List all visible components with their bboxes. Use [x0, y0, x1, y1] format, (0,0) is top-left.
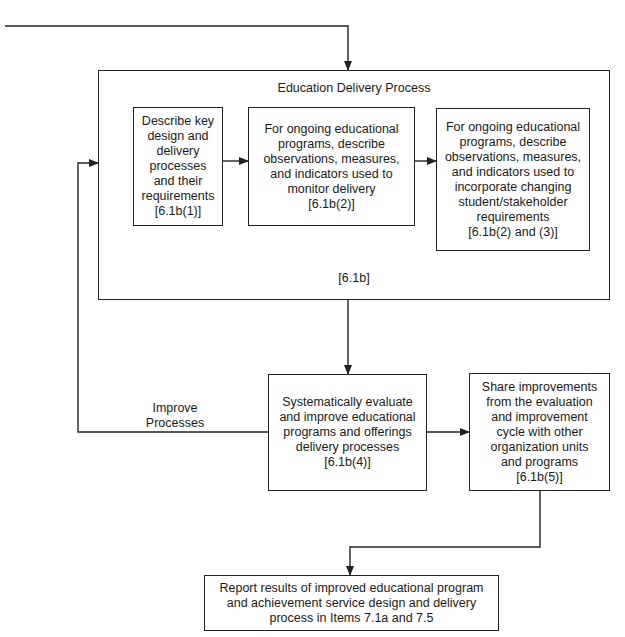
process-ref: [6.1b] — [98, 271, 610, 286]
evaluate-improve-text: Systematically evaluate and improve educ… — [279, 395, 415, 470]
describe-processes-text: Describe key design and delivery process… — [142, 114, 215, 219]
incorporate-requirements-text: For ongoing educational programs, descri… — [445, 120, 581, 240]
evaluate-improve-box: Systematically evaluate and improve educ… — [268, 374, 427, 491]
improve-processes-label: Improve Processes — [130, 401, 220, 431]
monitor-delivery-text: For ongoing educational programs, descri… — [263, 122, 399, 212]
share-improvements-text: Share improvements from the evaluation a… — [482, 380, 597, 485]
share-improvements-box: Share improvements from the evaluation a… — [469, 373, 610, 491]
report-results-text: Report results of improved educational p… — [219, 581, 483, 626]
describe-processes-box: Describe key design and delivery process… — [133, 107, 223, 226]
process-title: Education Delivery Process — [98, 81, 610, 96]
report-results-box: Report results of improved educational p… — [204, 575, 499, 631]
arrow-share-to-report — [350, 490, 540, 575]
incorporate-requirements-box: For ongoing educational programs, descri… — [436, 108, 590, 251]
monitor-delivery-box: For ongoing educational programs, descri… — [248, 107, 415, 226]
incoming-arrow — [5, 26, 348, 70]
